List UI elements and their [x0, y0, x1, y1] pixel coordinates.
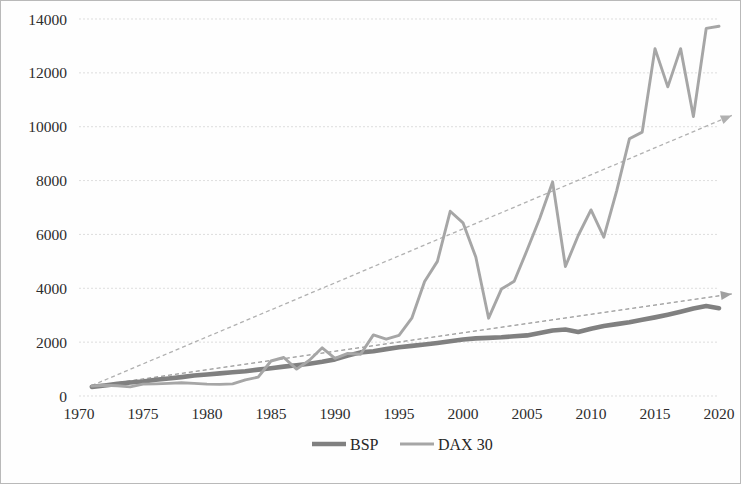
- x-tick-label: 2000: [448, 405, 479, 422]
- line-chart: 14000120001000080006000400020000 1970197…: [1, 1, 741, 484]
- x-tick-label: 1985: [256, 405, 287, 422]
- chart-legend: BSPDAX 30: [312, 436, 493, 453]
- y-tick-label: 4000: [36, 280, 67, 297]
- x-tick-label: 1970: [64, 405, 95, 422]
- y-tick-label: 6000: [36, 226, 67, 243]
- y-tick-label: 12000: [28, 64, 67, 81]
- legend-label: DAX 30: [438, 436, 493, 453]
- gridlines: [79, 19, 719, 396]
- data-series: [92, 26, 719, 387]
- y-tick-label: 8000: [36, 172, 67, 189]
- x-tick-label: 2010: [576, 405, 607, 422]
- x-tick-label: 1975: [128, 405, 159, 422]
- trendline-arrow-icon: [720, 115, 732, 124]
- x-tick-label: 1995: [384, 405, 415, 422]
- y-tick-label: 0: [59, 388, 67, 405]
- x-tick-label: 2020: [704, 405, 735, 422]
- y-tick-label: 14000: [28, 11, 67, 28]
- x-tick-label: 1990: [320, 405, 351, 422]
- y-tick-label: 2000: [36, 334, 67, 351]
- x-axis-tick-labels: 1970197519801985199019952000200520102015…: [64, 405, 735, 422]
- legend-label: BSP: [350, 436, 379, 453]
- x-tick-label: 1980: [192, 405, 223, 422]
- y-axis-tick-labels: 14000120001000080006000400020000: [28, 11, 67, 405]
- trendline-arrow-icon: [720, 291, 732, 300]
- x-tick-label: 2015: [640, 405, 671, 422]
- x-tick-label: 2005: [512, 405, 543, 422]
- trendline: [92, 294, 732, 386]
- series-line-dax-30: [92, 26, 719, 387]
- y-tick-label: 10000: [28, 118, 67, 135]
- chart-figure: 14000120001000080006000400020000 1970197…: [0, 0, 741, 484]
